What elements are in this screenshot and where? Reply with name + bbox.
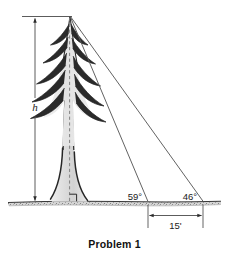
angle-label-near: 59°	[128, 191, 143, 202]
problem-1-diagram: h 59° 46° 15'	[0, 0, 229, 261]
figure-caption: Problem 1	[0, 238, 229, 250]
angle-label-far: 46°	[183, 191, 198, 202]
height-label: h	[32, 101, 38, 113]
diagram-background	[0, 0, 229, 261]
figure-container: h 59° 46° 15'	[0, 0, 229, 261]
baseline-label: 15'	[169, 220, 182, 231]
